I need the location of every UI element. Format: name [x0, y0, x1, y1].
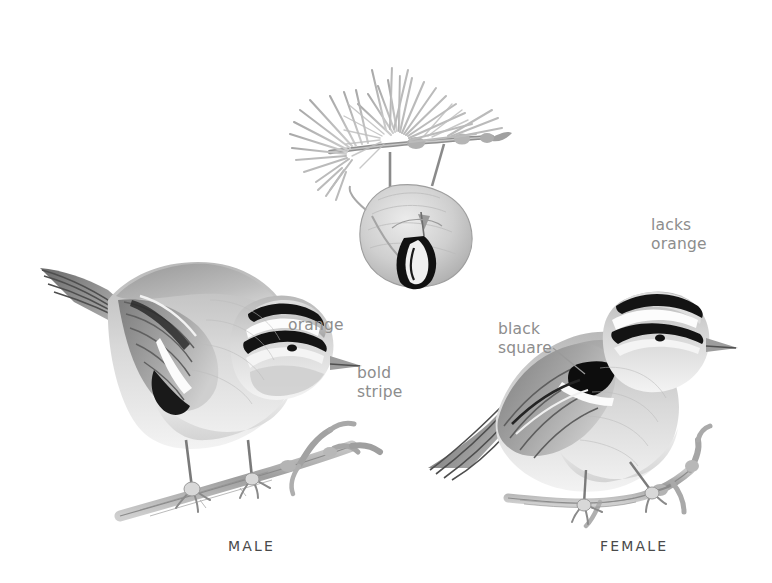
conifer-needles	[290, 68, 502, 200]
male-eye	[287, 344, 297, 351]
female-tail	[428, 406, 506, 468]
illustration-plate: orange bold stripe black square lacks or…	[0, 0, 772, 583]
female-bill	[706, 338, 738, 352]
figure-hanging-bird	[290, 68, 512, 289]
annotation-lacks-orange: lacks orange	[651, 216, 707, 254]
male-leg-front	[248, 440, 252, 478]
figure-female-bird	[428, 292, 738, 527]
annotation-orange: orange	[288, 316, 344, 335]
figure-male-bird	[40, 262, 380, 516]
plate-artwork	[0, 0, 772, 583]
caption-male: MALE	[228, 538, 275, 554]
annotation-black-square: black square	[498, 320, 552, 358]
female-eye	[655, 334, 665, 341]
caption-female: FEMALE	[600, 538, 668, 554]
annotation-bold-stripe: bold stripe	[357, 364, 402, 402]
